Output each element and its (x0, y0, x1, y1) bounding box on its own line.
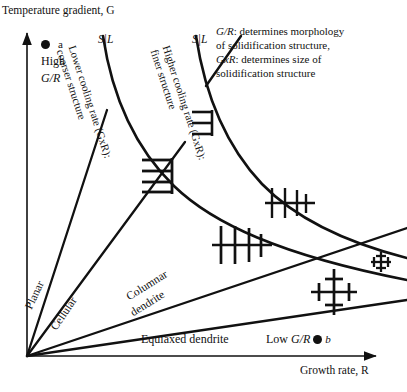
region-boundary-rays (27, 110, 407, 356)
cellular-comb-large-glyph (142, 158, 172, 194)
y-axis-title: Temperature gradient, G (2, 4, 115, 18)
point-b-prefix: Low (266, 332, 291, 346)
legend: G/R: determines morphology of solidifica… (216, 24, 344, 80)
legend-line-2: of solidification structure, (216, 38, 344, 52)
legend-line-3-symbol: GxR (216, 53, 236, 65)
legend-line-3: GxR: determines size of (216, 52, 344, 66)
legend-line-1-text: : determines morphology (234, 25, 345, 37)
legend-line-1: G/R: determines morphology (216, 24, 344, 38)
point-b-ratio: G/R (291, 332, 310, 346)
columnar-dendrite-small-glyph (265, 188, 315, 218)
point-a-dot (41, 40, 50, 49)
x-axis-title: Growth rate, R (300, 364, 369, 378)
equiaxed-cross-small-glyph (371, 252, 391, 272)
point-b-dot (313, 335, 322, 344)
point-b-annotation: Low G/R b (266, 332, 331, 347)
point-b-label: b (325, 333, 331, 345)
legend-line-3-text: : determines size of (236, 53, 322, 65)
ray-equiaxed-lower (27, 300, 407, 356)
ray-planar-cellular (27, 110, 107, 356)
region-label-equiaxed-dendrite: Equiaxed dendrite (141, 332, 229, 347)
legend-line-4: solidification structure (216, 66, 344, 80)
sl-label-left: S|L (98, 33, 113, 45)
solidification-microstructure-diagram: Temperature gradient, G Growth rate, R a… (0, 0, 407, 392)
legend-line-1-symbol: G/R (216, 25, 234, 37)
sl-label-right: S|L (192, 33, 207, 45)
